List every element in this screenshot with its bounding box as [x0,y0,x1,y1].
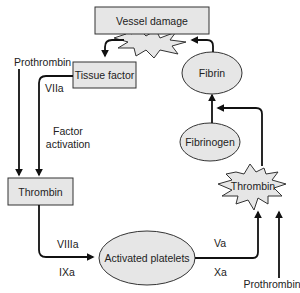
tissue-factor-label: Tissue factor [75,69,135,81]
activated-platelets-label: Activated platelets [104,252,189,264]
prothrombin-top-label: Prothrombin [14,56,71,68]
vessel-damage-label: Vessel damage [116,15,188,27]
thrombin-box-node: Thrombin [8,178,73,205]
va-label: Va [214,237,226,249]
fibrin-label: Fibrin [199,67,225,79]
thrombin-starburst-label: Thrombin [231,180,276,192]
factor-activation-label-line2: activation [46,138,91,150]
tissue-factor-node: Tissue factor [73,62,136,88]
factor-activation-label-line1: Factor [53,125,83,137]
fibrinogen-label: Fibrinogen [185,136,235,148]
vessel-damage-node: Vessel damage [95,7,209,34]
prothrombin-bottom-label: Prothrombin [243,278,300,290]
xa-label: Xa [214,266,227,278]
arrow-platelets-to-thrombin [195,212,258,258]
activated-platelets-node: Activated platelets [99,231,195,285]
viia-label: VIIa [45,82,64,94]
ixa-label: IXa [59,266,75,278]
coagulation-diagram: Vessel damage Tissue factor Prothrombin … [0,0,300,293]
thrombin-box-label: Thrombin [18,186,63,198]
thrombin-starburst-node: Thrombin [218,164,286,210]
fibrinogen-node: Fibrinogen [180,123,240,161]
viiia-label: VIIIa [57,238,79,250]
arrow-fibrin-to-vessel [192,40,213,52]
fibrin-node: Fibrin [182,52,242,94]
